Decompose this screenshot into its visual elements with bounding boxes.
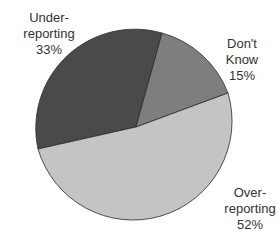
label-value: 33% <box>14 42 84 58</box>
label-under-reporting: Under- reporting 33% <box>14 10 84 58</box>
label-line1: Over- <box>220 185 278 201</box>
label-line1: Under- <box>14 10 84 26</box>
label-line2: reporting <box>220 201 278 217</box>
label-over-reporting: Over- reporting 52% <box>220 185 278 233</box>
label-line1: Don't <box>216 36 268 52</box>
label-value: 15% <box>216 68 268 84</box>
label-dont-know: Don't Know 15% <box>216 36 268 84</box>
label-value: 52% <box>220 217 278 233</box>
label-line2: Know <box>216 52 268 68</box>
label-line2: reporting <box>14 26 84 42</box>
